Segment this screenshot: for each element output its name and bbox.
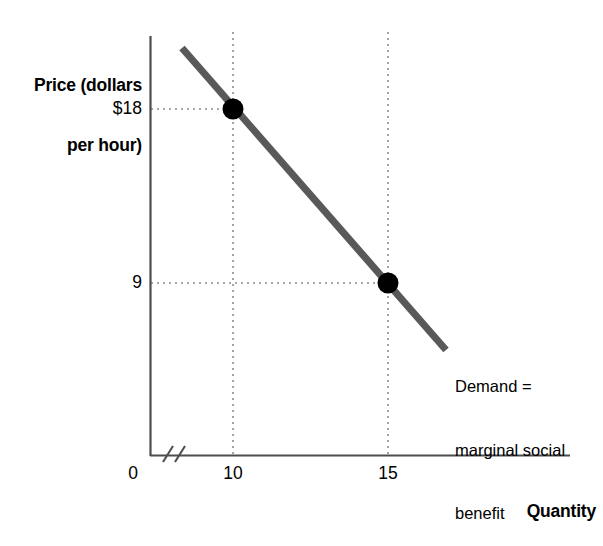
y-axis-title-line-2: per hour) bbox=[8, 136, 142, 156]
x-tick-label-0: 0 bbox=[93, 464, 173, 484]
x-axis-title-line-1: Quantity bbox=[400, 502, 596, 522]
y-tick-label-9: 9 bbox=[22, 273, 142, 293]
y-tick-label-18: $18 bbox=[22, 99, 142, 119]
economics-demand-chart: Price (dollars per hour) $18 9 0 10 15 D… bbox=[0, 0, 603, 546]
demand-annotation-line-1: Demand = bbox=[455, 376, 603, 397]
axis-break-icon bbox=[163, 446, 185, 462]
demand-curve-line bbox=[182, 48, 446, 350]
data-point-marker-15-9 bbox=[378, 273, 399, 294]
demand-annotation-line-2: marginal social bbox=[455, 440, 603, 461]
x-axis-title: Quantity (hours of protection) bbox=[400, 462, 596, 546]
x-tick-label-10: 10 bbox=[193, 464, 273, 484]
y-axis-title-line-1: Price (dollars bbox=[8, 76, 142, 96]
data-point-marker-10-18 bbox=[223, 99, 244, 120]
